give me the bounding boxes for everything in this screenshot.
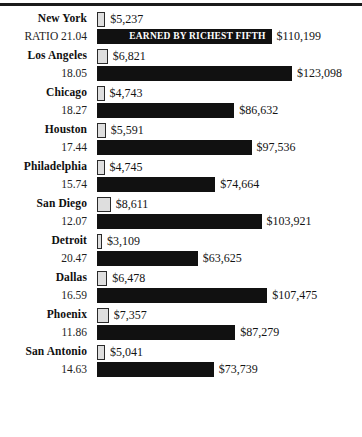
city-row: Philadelphia15.74$4,745$74,664 xyxy=(0,160,362,197)
richest-fifth-value: $110,199 xyxy=(272,29,322,44)
row-bars: $4,745$74,664 xyxy=(97,160,362,197)
richest-fifth-value: $63,625 xyxy=(198,251,242,266)
poorest-fifth-bar xyxy=(97,86,105,101)
city-name-label: Houston xyxy=(45,123,87,135)
richest-fifth-value: $74,664 xyxy=(215,177,259,192)
richest-fifth-value: $123,098 xyxy=(292,66,342,81)
poorest-fifth-value: $5,591 xyxy=(106,123,144,138)
row-bars: $6,478$107,475 xyxy=(97,271,362,308)
city-name-label: San Diego xyxy=(37,197,87,209)
poorest-fifth-value: $7,357 xyxy=(109,308,147,323)
poorest-fifth-bar xyxy=(97,271,107,286)
city-name-label: Phoenix xyxy=(47,308,87,320)
poorest-fifth-value: $5,041 xyxy=(105,345,143,360)
richest-fifth-bar-line: $103,921 xyxy=(97,214,312,229)
city-row: New YorkRATIO 21.04$5,237EARNED BY RICHE… xyxy=(0,12,362,49)
richest-fifth-bar-line: $73,739 xyxy=(97,362,258,377)
poorest-fifth-bar xyxy=(97,160,105,175)
ratio-label: 18.27 xyxy=(61,104,87,116)
poorest-fifth-value: $4,743 xyxy=(105,86,143,101)
row-bars: $7,357$87,279 xyxy=(97,308,362,345)
richest-fifth-bar xyxy=(97,288,267,303)
city-row: San Antonio14.63$5,041$73,739 xyxy=(0,345,362,382)
city-row: Detroit20.47$3,109$63,625 xyxy=(0,234,362,271)
richest-fifth-legend-note: EARNED BY RICHEST FIFTH xyxy=(129,29,265,44)
top-divider-rule xyxy=(0,3,362,6)
city-name-label: New York xyxy=(38,12,87,24)
poorest-fifth-bar xyxy=(97,197,111,212)
richest-fifth-bar-line: $97,536 xyxy=(97,140,296,155)
row-bars: $5,591$97,536 xyxy=(97,123,362,160)
ratio-label: 11.86 xyxy=(62,326,87,338)
city-name-label: Philadelphia xyxy=(24,160,87,172)
row-bars: $5,237EARNED BY RICHEST FIFTH$110,199 xyxy=(97,12,362,49)
richest-fifth-bar xyxy=(97,103,234,118)
poorest-fifth-bar-line: $3,109 xyxy=(97,234,140,249)
city-row: Dallas16.59$6,478$107,475 xyxy=(0,271,362,308)
poorest-fifth-bar-line: $5,041 xyxy=(97,345,143,360)
poorest-fifth-bar-line: $6,821 xyxy=(97,49,146,64)
city-name-label: Los Angeles xyxy=(27,49,87,61)
richest-fifth-value: $73,739 xyxy=(214,362,258,377)
poorest-fifth-bar-line: $6,478 xyxy=(97,271,145,286)
row-bars: $8,611$103,921 xyxy=(97,197,362,234)
poorest-fifth-value: $3,109 xyxy=(102,234,140,249)
row-bars: $6,821$123,098 xyxy=(97,49,362,86)
city-row: Chicago18.27$4,743$86,632 xyxy=(0,86,362,123)
richest-fifth-bar-line: $87,279 xyxy=(97,325,279,340)
poorest-fifth-bar-line: $7,357 xyxy=(97,308,147,323)
poorest-fifth-bar-line: $8,611 xyxy=(97,197,148,212)
city-row: Phoenix11.86$7,357$87,279 xyxy=(0,308,362,345)
richest-fifth-value: $87,279 xyxy=(235,325,279,340)
city-row: Houston17.44$5,591$97,536 xyxy=(0,123,362,160)
poorest-fifth-bar xyxy=(97,123,106,138)
richest-fifth-bar xyxy=(97,66,292,81)
row-bars: $3,109$63,625 xyxy=(97,234,362,271)
richest-fifth-value: $103,921 xyxy=(262,214,312,229)
poorest-fifth-bar xyxy=(97,308,109,323)
richest-fifth-bar xyxy=(97,177,215,192)
poorest-fifth-bar xyxy=(97,345,105,360)
poorest-fifth-bar-line: $4,743 xyxy=(97,86,143,101)
poorest-fifth-value: $6,478 xyxy=(107,271,145,286)
poorest-fifth-bar xyxy=(97,49,108,64)
city-name-label: Chicago xyxy=(46,86,87,98)
richest-fifth-bar xyxy=(97,325,235,340)
ratio-label: 20.47 xyxy=(61,252,87,264)
richest-fifth-value: $97,536 xyxy=(252,140,296,155)
row-bars: $5,041$73,739 xyxy=(97,345,362,382)
city-row: San Diego12.07$8,611$103,921 xyxy=(0,197,362,234)
ratio-label: 15.74 xyxy=(61,178,87,190)
city-name-label: Detroit xyxy=(51,234,87,246)
richest-fifth-bar-line: $74,664 xyxy=(97,177,259,192)
ratio-label: 16.59 xyxy=(61,289,87,301)
ratio-label: 18.05 xyxy=(61,67,87,79)
richest-fifth-value: $86,632 xyxy=(234,103,278,118)
poorest-fifth-bar-line: $4,745 xyxy=(97,160,143,175)
richest-fifth-bar xyxy=(97,362,214,377)
poorest-fifth-bar xyxy=(97,12,105,27)
richest-fifth-bar-line: $123,098 xyxy=(97,66,342,81)
poorest-fifth-value: $6,821 xyxy=(108,49,146,64)
richest-fifth-value: $107,475 xyxy=(267,288,317,303)
income-inequality-chart: New YorkRATIO 21.04$5,237EARNED BY RICHE… xyxy=(0,0,362,437)
chart-rows-container: New YorkRATIO 21.04$5,237EARNED BY RICHE… xyxy=(0,12,362,382)
richest-fifth-bar-line: EARNED BY RICHEST FIFTH$110,199 xyxy=(97,29,321,44)
city-row: Los Angeles18.05$6,821$123,098 xyxy=(0,49,362,86)
city-name-label: Dallas xyxy=(56,271,87,283)
ratio-label: 12.07 xyxy=(61,215,87,227)
poorest-fifth-bar-line: $5,591 xyxy=(97,123,144,138)
richest-fifth-bar-line: $107,475 xyxy=(97,288,317,303)
row-bars: $4,743$86,632 xyxy=(97,86,362,123)
richest-fifth-bar xyxy=(97,140,252,155)
city-name-label: San Antonio xyxy=(25,345,87,357)
richest-fifth-bar-line: $86,632 xyxy=(97,103,278,118)
poorest-fifth-value: $4,745 xyxy=(105,160,143,175)
poorest-fifth-bar-line: $5,237 xyxy=(97,12,143,27)
richest-fifth-bar xyxy=(97,214,262,229)
richest-fifth-bar xyxy=(97,251,198,266)
poorest-fifth-value: $5,237 xyxy=(105,12,143,27)
ratio-label: RATIO 21.04 xyxy=(24,30,87,42)
richest-fifth-bar-line: $63,625 xyxy=(97,251,242,266)
poorest-fifth-value: $8,611 xyxy=(111,197,149,212)
